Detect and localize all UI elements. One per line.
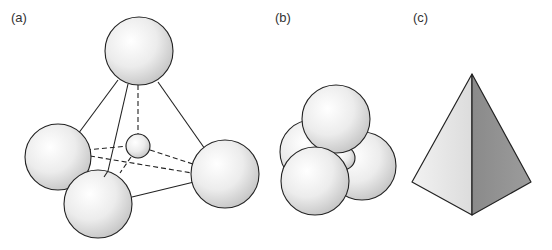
diagram-canvas: [0, 0, 552, 250]
right-sphere: [191, 140, 259, 208]
panel-c-tetrahedron: [412, 74, 531, 215]
panel-b-close-packed-spheres: [280, 85, 396, 215]
panel-a-tetrahedral-spheres: [25, 17, 259, 238]
top-sphere: [105, 17, 173, 85]
front-sphere: [64, 170, 132, 238]
light-face: [412, 74, 472, 215]
front-sphere: [281, 147, 349, 215]
top-sphere: [302, 85, 370, 153]
dark-face: [472, 74, 531, 215]
center-small-sphere: [126, 134, 150, 158]
